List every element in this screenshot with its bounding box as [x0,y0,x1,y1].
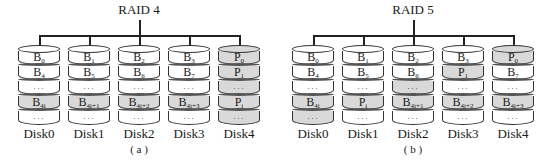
ellipsis-block: ··· [342,111,384,125]
ellipsis-text: ··· [507,113,519,123]
block-letter: P [458,65,465,79]
ellipsis-block: ··· [492,111,534,125]
block-separator [118,108,160,111]
disk-2: B2B6···B4i+1··· [392,45,434,123]
disk-label: Disk4 [488,126,538,142]
disk-1: B1B5···Pi··· [342,45,384,123]
block-separator [442,108,484,111]
disk-2: B2B6···B4i+2··· [118,45,160,123]
disk-cap [392,45,434,53]
ellipsis-block: ··· [18,111,60,125]
disk-cap [292,45,334,53]
ellipsis-text: ··· [457,113,469,123]
disk-1: B1B5···B4i+1··· [68,45,110,123]
ellipsis-text: ··· [183,83,195,93]
ellipsis-text: ··· [83,113,95,123]
ellipsis-block: ··· [168,111,210,125]
disk-label: Disk1 [64,126,114,142]
block-separator [392,78,434,81]
disk-4: P0B7···B4i+3··· [492,45,534,123]
disk-cap [218,45,260,53]
ellipsis-text: ··· [357,113,369,123]
disk-cap [18,45,60,53]
block-separator [118,78,160,81]
block-letter: P [234,65,241,79]
block-separator [392,108,434,111]
ellipsis-text: ··· [183,113,195,123]
block-separator [168,78,210,81]
block-separator [342,78,384,81]
disk-3: B3P1···B4i+2··· [442,45,484,123]
disk-label: Disk0 [288,126,338,142]
disk-cap [492,45,534,53]
block-letter: B [503,95,511,109]
block-separator [218,78,260,81]
ellipsis-block: ··· [68,111,110,125]
block-separator [218,108,260,111]
ellipsis-text: ··· [307,113,319,123]
disk-4: P0P1···Pi··· [218,45,260,123]
diagram-title: RAID 4 [109,2,169,18]
block-separator [292,108,334,111]
diagram-title: RAID 5 [383,2,443,18]
block-letter: B [403,95,411,109]
ellipsis-text: ··· [133,113,145,123]
disk-cap [68,45,110,53]
disk-cap [168,45,210,53]
ellipsis-text: ··· [407,113,419,123]
panel-b: RAID 5B0B4···B4i···Disk0B1B5···Pi···Disk… [274,0,548,160]
disk-cap [118,45,160,53]
disk-0: B0B4···B4i··· [292,45,334,123]
block-separator [492,108,534,111]
ellipsis-text: ··· [233,113,245,123]
block-separator [18,108,60,111]
panel-a: RAID 4B0B4···B4i···Disk0B1B5···B4i+1···D… [0,0,274,160]
disk-label: Disk1 [338,126,388,142]
ellipsis-block: ··· [442,111,484,125]
block-letter: B [129,95,137,109]
disk-0: B0B4···B4i··· [18,45,60,123]
block-separator [442,78,484,81]
ellipsis-block: ··· [218,111,260,125]
block-separator [342,108,384,111]
ellipsis-text: ··· [133,83,145,93]
disk-3: B3B7···B4i+3··· [168,45,210,123]
block-separator [168,108,210,111]
connector-trunk [413,20,415,36]
ellipsis-block: ··· [118,111,160,125]
disk-label: Disk2 [388,126,438,142]
panel-caption: ( b ) [393,143,433,155]
disk-label: Disk2 [114,126,164,142]
ellipsis-text: ··· [33,83,45,93]
ellipsis-text: ··· [33,113,45,123]
block-letter: B [453,95,461,109]
disk-cap [342,45,384,53]
disk-label: Disk3 [164,126,214,142]
ellipsis-text: ··· [307,83,319,93]
block-letter: B [79,95,87,109]
ellipsis-block: ··· [392,111,434,125]
block-separator [292,78,334,81]
ellipsis-text: ··· [457,83,469,93]
ellipsis-text: ··· [507,83,519,93]
block-separator [492,78,534,81]
ellipsis-block: ··· [292,111,334,125]
disk-cap [442,45,484,53]
ellipsis-text: ··· [357,83,369,93]
block-separator [68,108,110,111]
disk-label: Disk4 [214,126,264,142]
block-letter: B [179,95,187,109]
block-separator [18,78,60,81]
block-separator [68,78,110,81]
panel-caption: ( a ) [119,143,159,155]
ellipsis-text: ··· [83,83,95,93]
ellipsis-text: ··· [233,83,245,93]
disk-label: Disk0 [14,126,64,142]
disk-label: Disk3 [438,126,488,142]
connector-trunk [139,20,141,36]
ellipsis-text: ··· [407,83,419,93]
